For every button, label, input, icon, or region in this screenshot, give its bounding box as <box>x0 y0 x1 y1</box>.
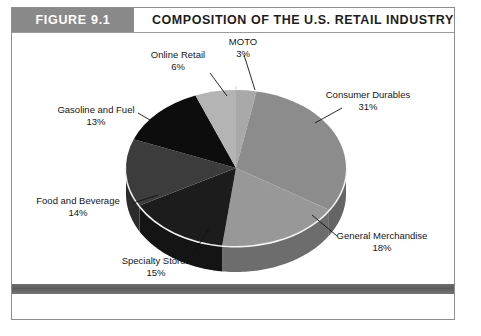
pie-label-moto: MOTO 3% <box>220 36 266 59</box>
pie-label-general-merchandise-pct: 18% <box>321 242 443 254</box>
pie-label-specialty-stores-name: Specialty Stores <box>122 255 191 266</box>
figure-header: FIGURE 9.1 COMPOSITION OF THE U.S. RETAI… <box>12 8 454 33</box>
pie-label-food-and-beverage: Food and Beverage 14% <box>25 195 131 218</box>
figure-title: COMPOSITION OF THE U.S. RETAIL INDUSTRY <box>134 8 454 32</box>
figure-frame: FIGURE 9.1 COMPOSITION OF THE U.S. RETAI… <box>11 7 455 320</box>
pie-label-food-and-beverage-pct: 14% <box>25 207 131 219</box>
pie-label-moto-pct: 3% <box>220 48 266 60</box>
figure-number-badge: FIGURE 9.1 <box>12 8 134 32</box>
pie-label-specialty-stores-pct: 15% <box>108 267 204 279</box>
pie-label-moto-name: MOTO <box>229 36 257 47</box>
pie-label-gasoline-and-fuel: Gasoline and Fuel 13% <box>44 104 148 127</box>
pie-label-general-merchandise: General Merchandise 18% <box>321 230 443 253</box>
pie-label-consumer-durables-pct: 31% <box>312 101 424 113</box>
pie-top-face <box>126 90 346 246</box>
pie-label-gasoline-and-fuel-name: Gasoline and Fuel <box>57 104 134 115</box>
pie-label-online-retail: Online Retail 6% <box>136 49 220 72</box>
pie-chart-area: MOTO 3% Online Retail 6% Consumer Durabl… <box>12 33 454 294</box>
pie-label-online-retail-pct: 6% <box>136 61 220 73</box>
pie-label-food-and-beverage-name: Food and Beverage <box>36 195 119 206</box>
pie-label-gasoline-and-fuel-pct: 13% <box>44 116 148 128</box>
pie-label-online-retail-name: Online Retail <box>151 49 205 60</box>
highlight-dot-icon <box>235 87 238 90</box>
pie-label-consumer-durables-name: Consumer Durables <box>326 89 410 100</box>
leader-line <box>244 55 255 90</box>
pie-label-consumer-durables: Consumer Durables 31% <box>312 89 424 112</box>
figure-footer-bar <box>12 284 454 294</box>
pie-label-general-merchandise-name: General Merchandise <box>337 230 428 241</box>
pie-label-specialty-stores: Specialty Stores 15% <box>108 255 204 278</box>
